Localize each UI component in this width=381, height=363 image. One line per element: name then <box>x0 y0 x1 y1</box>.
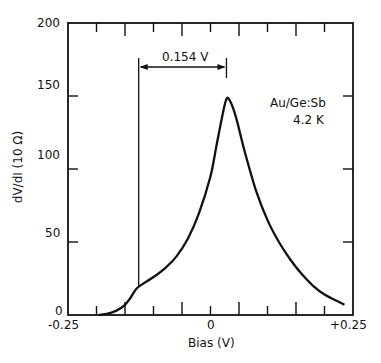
y-tick-0: 0 <box>55 304 63 318</box>
y-tick-50: 50 <box>45 226 60 240</box>
y-tick-100: 100 <box>37 148 60 162</box>
x-axis-label: Bias (V) <box>188 336 235 350</box>
x-tick-pos: +0.25 <box>330 318 367 332</box>
x-tick-zero: 0 <box>207 318 215 332</box>
span-annotation: 0.154 V <box>162 50 208 64</box>
y-axis-label: dV/dI (10 Ω) <box>11 131 25 203</box>
sample-label: Au/Ge:Sb <box>270 96 326 110</box>
y-tick-150: 150 <box>37 78 60 92</box>
y-tick-200: 200 <box>37 16 60 30</box>
temperature-label: 4.2 K <box>293 113 324 127</box>
x-tick-neg: -0.25 <box>48 318 79 332</box>
